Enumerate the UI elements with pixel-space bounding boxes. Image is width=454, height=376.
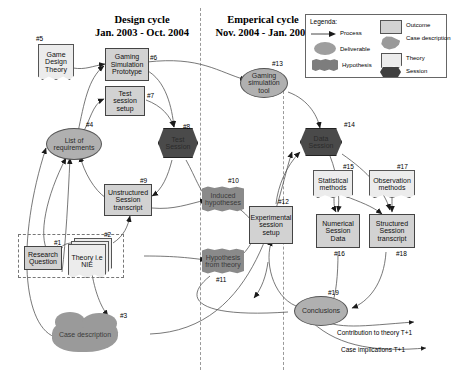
node-13-label: Gaming simulation tool	[241, 72, 287, 94]
legend-process-icon	[311, 30, 337, 38]
node-10-label: Induced hypotheses	[202, 192, 244, 207]
node-14-label: Data Session	[301, 135, 341, 150]
node-gaming-simulation-prototype[interactable]: Gaming Simulation Prototype	[105, 48, 149, 81]
legend-case-description-text: Case description	[406, 35, 451, 41]
node-14-tag: #14	[344, 121, 355, 128]
node-test-session[interactable]: Test Session	[158, 128, 198, 158]
node-1-label: Research Question	[25, 251, 61, 266]
node-6-label: Gaming Simulation Prototype	[106, 53, 148, 75]
node-8-tag: #8	[183, 123, 190, 130]
node-19-label: Conclusions	[301, 307, 341, 314]
node-11-label: Hypothesis from theory	[202, 254, 244, 269]
legend-title: Legenda:	[310, 18, 337, 25]
output-contribution-to-theory: Contribution to theory T+1	[337, 329, 412, 336]
node-game-design-theory[interactable]: Game Design Theory	[38, 44, 74, 80]
node-research-question[interactable]: Research Question	[24, 246, 62, 270]
node-3-tag: #3	[120, 312, 127, 319]
node-3-label: Case description	[58, 331, 112, 338]
node-11-tag: #11	[216, 276, 226, 283]
node-4-label: List of requirements	[47, 137, 101, 152]
node-17-tag: #17	[397, 163, 408, 170]
node-numerical-session-data[interactable]: Numerical Session Data	[316, 214, 360, 248]
node-case-description[interactable]: Case description	[52, 318, 118, 352]
node-12-label: Experimental session setup	[250, 214, 293, 236]
node-unstructured-session-transcript[interactable]: Unstructured Session transcript	[104, 184, 152, 216]
node-12-tag: #12	[278, 198, 289, 205]
node-gaming-simulation-tool[interactable]: Gaming simulation tool	[240, 68, 288, 98]
node-15-label: Statistical methods	[314, 177, 352, 192]
node-conclusions[interactable]: Conclusions	[294, 296, 348, 326]
node-9-label: Unstructured Session transcript	[105, 189, 151, 211]
node-theory-nie[interactable]: Theory i.e NIE	[68, 244, 106, 278]
node-1-tag: #1	[54, 239, 61, 246]
node-test-session-setup[interactable]: Test session setup	[105, 86, 145, 116]
legend-session-icon	[380, 67, 401, 77]
node-9-tag: #9	[140, 177, 147, 184]
node-statistical-methods[interactable]: Statistical methods	[313, 170, 353, 198]
node-18-label: Structured Session transcript	[370, 220, 414, 242]
node-experimental-session-setup[interactable]: Experimental session setup	[249, 206, 293, 244]
node-16-label: Numerical Session Data	[317, 220, 359, 242]
node-list-of-requirements[interactable]: List of requirements	[46, 128, 102, 160]
legend-case-description-icon	[380, 36, 401, 50]
legend-deliverable-icon	[314, 42, 336, 55]
legend-session-label: Session	[406, 68, 427, 74]
legend-process-label: Process	[340, 30, 362, 36]
legend-hypothesis-label: Hypothesis	[342, 62, 372, 68]
node-structured-session-transcript[interactable]: Structured Session transcript	[369, 214, 415, 248]
node-7-tag: #7	[147, 92, 154, 99]
output-case-implications: Case implications T+1	[341, 346, 405, 353]
node-13-tag: #13	[272, 60, 283, 67]
node-2-tag: #2	[104, 231, 111, 238]
legend-case-description-label: Case description	[406, 35, 451, 42]
node-16-tag: #16	[334, 250, 345, 257]
diagram-canvas: Design cycle Jan. 2003 - Oct. 2004 Emper…	[0, 0, 454, 376]
node-data-session[interactable]: Data Session	[300, 128, 342, 156]
legend-deliverable-label: Deliverable	[340, 46, 370, 52]
node-17-label: Observation methods	[370, 177, 414, 192]
node-observation-methods[interactable]: Observation methods	[369, 170, 415, 198]
legend-theory-icon	[381, 53, 402, 68]
node-19-tag: #19	[328, 289, 339, 296]
legend-theory-label: Theory	[406, 55, 425, 61]
node-2-label: Theory i.e NIE	[69, 254, 105, 269]
legend-outcome-icon	[380, 20, 402, 34]
legend-hypothesis-icon	[312, 59, 338, 71]
node-6-tag: #6	[150, 54, 157, 61]
node-18-tag: #18	[396, 250, 407, 257]
legend-outcome-label: Outcome	[406, 22, 430, 28]
node-15-tag: #15	[343, 163, 354, 170]
node-hypothesis-from-theory[interactable]: Hypothesis from theory	[202, 248, 244, 274]
node-7-label: Test session setup	[106, 90, 144, 112]
node-5-tag: #5	[36, 35, 43, 42]
node-8-label: Test Session	[159, 136, 197, 151]
node-10-tag: #10	[228, 177, 239, 184]
legend-box: Legenda: Process Deliverable Hypothesis …	[305, 14, 447, 78]
node-5-label: Game Design Theory	[39, 51, 73, 73]
node-4-tag: #4	[86, 121, 93, 128]
node-induced-hypotheses[interactable]: Induced hypotheses	[202, 186, 244, 212]
